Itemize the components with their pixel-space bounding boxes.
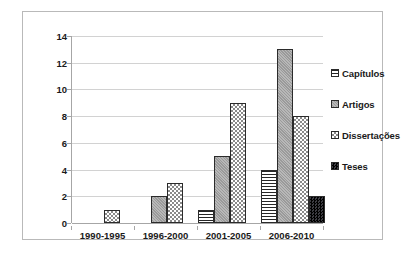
bars-layer — [72, 36, 323, 223]
bar — [277, 49, 293, 223]
bar — [309, 196, 325, 223]
y-axis-tick-label: 12 — [43, 57, 67, 68]
legend-swatch-icon — [331, 69, 339, 77]
y-axis-tick-label: 4 — [43, 164, 67, 175]
legend-label: Teses — [342, 161, 368, 172]
x-axis-tick-mark — [197, 226, 198, 230]
plot-area — [71, 36, 323, 223]
legend-label: Dissertações — [342, 130, 400, 141]
x-axis-tick-mark — [260, 226, 261, 230]
x-axis-tick-mark — [323, 226, 324, 230]
legend-swatch-icon — [331, 162, 339, 170]
y-axis-tick-label: 6 — [43, 137, 67, 148]
bar — [104, 210, 120, 223]
x-axis-tick-mark — [71, 226, 72, 230]
y-axis-tick-mark — [67, 223, 71, 224]
y-axis-tick-label: 2 — [43, 191, 67, 202]
legend-label: Artigos — [342, 99, 375, 110]
bar — [167, 183, 183, 223]
bar — [214, 156, 230, 223]
bar-group — [261, 36, 324, 223]
x-axis-tick-label: 1990-1995 — [80, 230, 125, 241]
legend-label: Capítulos — [342, 68, 384, 79]
chart-frame: 02468101214 1990-19951996-20002001-20052… — [22, 11, 383, 240]
x-axis-tick-label: 1996-2000 — [143, 230, 188, 241]
bar-chart: 02468101214 1990-19951996-20002001-20052… — [0, 0, 405, 253]
legend-item: Capítulos — [331, 58, 405, 88]
bar-group — [72, 36, 135, 223]
legend-swatch-icon — [331, 131, 339, 139]
bar — [151, 196, 167, 223]
bar — [198, 210, 214, 223]
y-axis: 02468101214 — [41, 36, 67, 223]
y-axis-tick-label: 10 — [43, 84, 67, 95]
legend-item: Dissertações — [331, 120, 405, 150]
bar-group — [198, 36, 261, 223]
chart-legend: CapítulosArtigosDissertaçõesTeses — [331, 58, 405, 182]
x-axis-tick-label: 2006-2010 — [269, 230, 314, 241]
y-axis-tick-label: 8 — [43, 111, 67, 122]
bar — [293, 116, 309, 223]
bar — [261, 170, 277, 223]
bar — [230, 103, 246, 223]
legend-swatch-icon — [331, 100, 339, 108]
x-axis-tick-label: 2001-2005 — [206, 230, 251, 241]
bar-group — [135, 36, 198, 223]
x-axis-tick-mark — [134, 226, 135, 230]
gridline — [72, 223, 323, 224]
x-axis: 1990-19951996-20002001-20052006-2010 — [71, 226, 323, 246]
y-axis-tick-label: 0 — [43, 218, 67, 229]
legend-item: Artigos — [331, 89, 405, 119]
y-axis-tick-label: 14 — [43, 31, 67, 42]
legend-item: Teses — [331, 151, 405, 181]
